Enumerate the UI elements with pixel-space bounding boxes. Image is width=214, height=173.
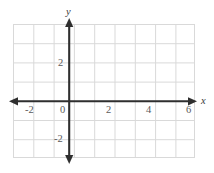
grid-lines-horizontal xyxy=(13,25,195,158)
y-axis-arrow-up xyxy=(65,18,73,27)
coordinate-plane: -2 2 4 6 0 2 -2 y x xyxy=(0,0,214,173)
y-tick-label-2: 2 xyxy=(58,58,63,69)
x-axis-label: x xyxy=(201,96,206,107)
y-tick-label-neg2: -2 xyxy=(54,134,63,145)
y-axis xyxy=(65,18,73,164)
origin-label: 0 xyxy=(60,105,65,116)
x-tick-label-4: 4 xyxy=(146,105,151,116)
graph-canvas xyxy=(0,0,214,173)
x-tick-label-6: 6 xyxy=(186,105,191,116)
x-axis xyxy=(9,97,197,105)
x-tick-label-neg2: -2 xyxy=(25,105,34,116)
x-tick-label-2: 2 xyxy=(106,105,111,116)
y-axis-arrow-down xyxy=(65,155,73,164)
y-axis-label: y xyxy=(66,7,71,18)
